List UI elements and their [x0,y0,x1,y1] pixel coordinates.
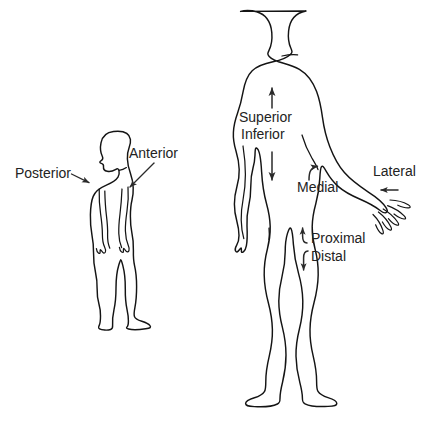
inferior-label: Inferior [241,126,285,142]
anterior-leader-arrow [130,163,154,187]
label-posterior: Posterior [15,165,89,183]
label-proximal: Proximal [303,228,366,246]
side-figure-outline [90,131,150,330]
anatomical-directions-diagram: Posterior Anterior Superior Inferior Med… [0,0,425,421]
diagram-canvas: Posterior Anterior Superior Inferior Med… [0,0,425,421]
superior-label: Superior [239,109,292,125]
front-figure-outline [233,11,387,407]
label-anterior: Anterior [129,145,178,187]
distal-label: Distal [311,248,346,264]
anterior-view-figure [233,11,410,407]
medial-label: Medial [297,179,338,195]
lateral-view-figure [90,131,150,330]
anterior-label: Anterior [129,145,178,161]
label-lateral: Lateral [373,163,416,190]
lateral-label: Lateral [373,163,416,179]
posterior-leader-arrow [72,174,90,183]
proximal-label: Proximal [311,230,365,246]
posterior-label: Posterior [15,165,71,181]
